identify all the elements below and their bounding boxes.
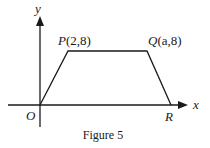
figure-caption: Figure 5 <box>83 128 123 142</box>
trapezium-path <box>40 51 171 105</box>
y-axis-label: y <box>33 1 41 16</box>
point-q-label: Q(a,8) <box>148 33 182 48</box>
figure-canvas: y x O P(2,8) Q(a,8) R Figure 5 <box>0 0 210 148</box>
x-axis-arrow-icon <box>178 101 188 109</box>
origin-label: O <box>26 108 36 123</box>
x-axis-label: x <box>192 97 199 112</box>
point-p-label: P(2,8) <box>57 33 91 48</box>
point-r-label: R <box>164 109 173 124</box>
y-axis-arrow-icon <box>36 16 44 26</box>
